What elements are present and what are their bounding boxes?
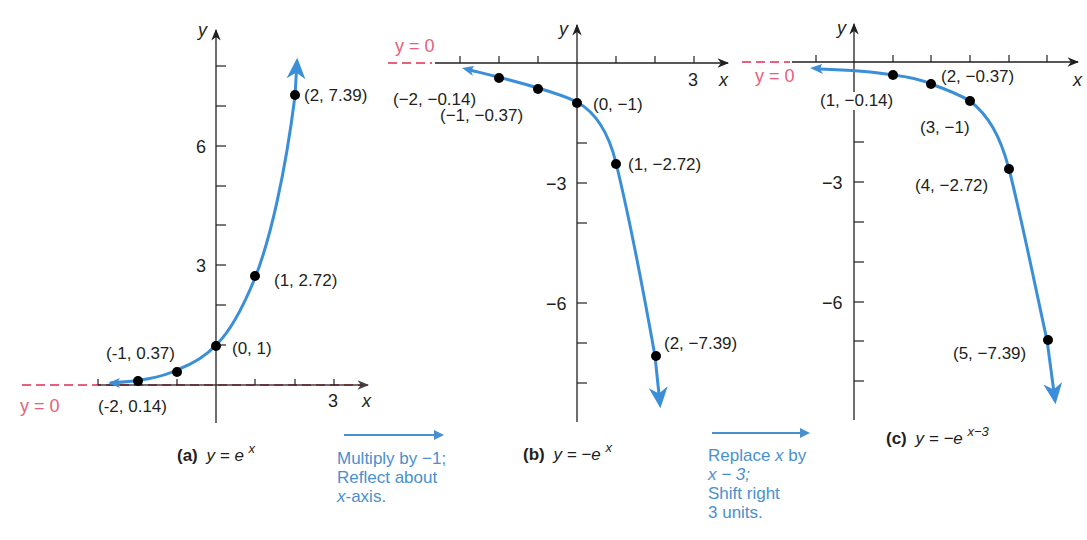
- asymptote-label: y = 0: [755, 66, 795, 86]
- point-label: (2, 7.39): [304, 86, 367, 105]
- point-label: (1, −2.72): [628, 155, 701, 174]
- panel-c: y = 0 −3 −6 y x: [742, 18, 1083, 448]
- point-label: (1, −0.14): [820, 91, 893, 110]
- y-ticks: [854, 142, 864, 381]
- panel-b: y = 0 −3 −6 3 y x: [388, 19, 737, 464]
- x-axis-label: x: [1072, 70, 1083, 90]
- y-ticks: [216, 66, 226, 345]
- point-label: (2, −7.39): [664, 334, 737, 353]
- y-tick-label: −6: [822, 293, 843, 313]
- y-axis-label: y: [196, 20, 208, 40]
- y-axis-label: y: [557, 19, 569, 39]
- y-ticks: [577, 143, 587, 383]
- transform-arrow-1: [344, 434, 442, 436]
- y-tick-label: 3: [196, 256, 206, 276]
- asymptote-label: y = 0: [20, 396, 60, 416]
- caption-b: (b) y = −e x: [523, 440, 612, 464]
- x-ticks: [816, 55, 1047, 62]
- x-axis-label: x: [361, 391, 372, 411]
- y-tick-label: 6: [196, 137, 206, 157]
- y-tick-label: −3: [546, 174, 567, 194]
- y-axis-label: y: [835, 18, 847, 38]
- point-label: (3, −1): [920, 118, 970, 137]
- point-label: (-1, 0.37): [106, 344, 175, 363]
- point-label: (4, −2.72): [915, 176, 988, 195]
- x-axis-label: x: [718, 70, 729, 90]
- point-label: (1, 2.72): [274, 271, 337, 290]
- point-label: (−1, −0.37): [440, 106, 523, 125]
- point-label: (0, 1): [232, 339, 272, 358]
- x-tick-label: 3: [328, 391, 338, 411]
- transform-note-1: Multiply by −1; Reflect about x-axis.: [337, 449, 446, 506]
- point-label: (5, −7.39): [953, 344, 1026, 363]
- curve-exp: [110, 62, 297, 383]
- figure-canvas: 3 6 3 y x y = 0 (-2, 0.14) (-1, 0.37) (0…: [0, 0, 1087, 540]
- panel-a: 3 6 3 y x y = 0 (-2, 0.14) (-1, 0.37) (0…: [20, 20, 372, 465]
- data-points: [888, 70, 1053, 345]
- caption-a: (a) y = e x: [177, 441, 256, 465]
- y-tick-label: −6: [546, 294, 567, 314]
- asymptote-label: y = 0: [395, 36, 435, 56]
- caption-c: (c) y = −e x−3: [886, 424, 990, 448]
- y-tick-label: −3: [822, 173, 843, 193]
- transform-arrow-2: [712, 432, 808, 434]
- transform-note-2: Replace x by x − 3; Shift right 3 units.: [708, 446, 806, 522]
- point-label: (-2, 0.14): [98, 397, 167, 416]
- point-label: (0, −1): [593, 95, 643, 114]
- x-tick-label: 3: [688, 70, 698, 90]
- point-label: (2, −0.37): [941, 67, 1014, 86]
